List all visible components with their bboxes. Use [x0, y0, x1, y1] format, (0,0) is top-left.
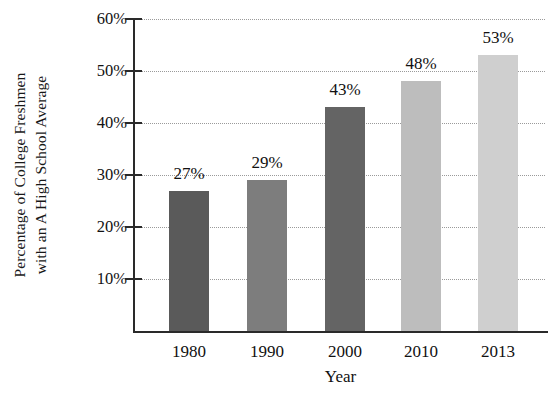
y-axis-tick-label: 20% — [67, 219, 127, 236]
y-axis-title-line2: with an A High School Average — [31, 73, 52, 278]
bar — [247, 180, 287, 331]
y-axis-tick-mark — [125, 18, 142, 20]
y-axis-tick-mark — [125, 122, 142, 124]
bar — [325, 107, 365, 331]
y-axis-tick-label: 60% — [67, 11, 127, 28]
plot-area: 27%198029%199043%200048%201053%2013 — [133, 20, 543, 333]
x-axis-tick-label: 2013 — [461, 343, 535, 360]
y-axis-line — [133, 20, 135, 333]
y-axis-title-line1: Percentage of College Freshmen — [10, 73, 31, 278]
y-axis-tick-mark — [125, 278, 142, 280]
y-axis-title: Percentage of College Freshmen with an A… — [0, 0, 62, 350]
bar-value-label: 27% — [154, 165, 224, 182]
bar-value-label: 48% — [386, 55, 456, 72]
y-axis-tick-labels: 60%50%40%30%20%10% — [63, 0, 127, 395]
y-axis-tick-label: 40% — [67, 115, 127, 132]
x-axis-title: Year — [133, 367, 548, 387]
bar — [169, 191, 209, 331]
bar-value-label: 53% — [463, 29, 533, 46]
bar-value-label: 29% — [232, 154, 302, 171]
x-axis-line — [133, 331, 548, 333]
y-axis-tick-label: 10% — [67, 271, 127, 288]
x-axis-tick-label: 2010 — [384, 343, 458, 360]
bar-value-label: 43% — [310, 81, 380, 98]
gridline — [142, 19, 545, 20]
y-axis-tick-mark — [125, 174, 142, 176]
x-axis-tick-label: 2000 — [308, 343, 382, 360]
bar — [401, 81, 441, 331]
y-axis-tick-label: 30% — [67, 167, 127, 184]
y-axis-tick-mark — [125, 226, 142, 228]
y-axis-tick-label: 50% — [67, 63, 127, 80]
bar — [478, 55, 518, 331]
x-axis-tick-label: 1980 — [152, 343, 226, 360]
x-axis-tick-label: 1990 — [230, 343, 304, 360]
bar-chart-figure: Percentage of College Freshmen with an A… — [0, 0, 558, 395]
y-axis-tick-mark — [125, 70, 142, 72]
